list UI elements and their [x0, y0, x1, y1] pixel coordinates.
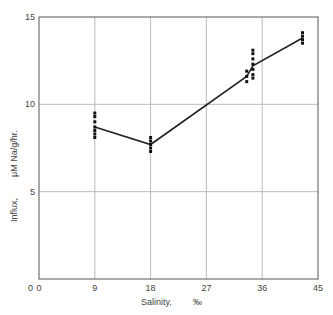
svg-text:10: 10: [25, 99, 35, 109]
svg-text:0: 0: [36, 283, 41, 293]
svg-text:36: 36: [257, 283, 267, 293]
svg-text:18: 18: [146, 283, 156, 293]
svg-text:27: 27: [201, 283, 211, 293]
x-axis-unit: ‰: [193, 297, 202, 307]
svg-text:45: 45: [313, 283, 323, 293]
plot-frame: [39, 17, 318, 279]
tick-labels: 0918273645510150: [25, 12, 323, 293]
svg-text:15: 15: [25, 12, 35, 22]
svg-text:5: 5: [30, 187, 35, 197]
y-axis-label: Influx,: [9, 198, 19, 222]
y-axis-unit: μM Na/g/hr.: [9, 130, 19, 177]
x-axis-label: Salinity,: [141, 297, 172, 307]
grid-lines: [39, 17, 318, 279]
svg-text:0: 0: [28, 283, 33, 293]
svg-text:9: 9: [92, 283, 97, 293]
data-points: [93, 31, 304, 153]
mean-line: [95, 38, 303, 145]
chart: 0918273645510150 Salinity, ‰ Influx, μM …: [0, 0, 333, 315]
